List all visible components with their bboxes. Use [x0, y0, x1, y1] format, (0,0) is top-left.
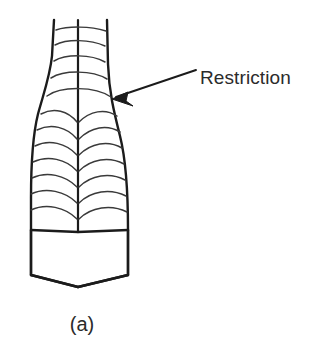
crystal-restriction-diagram: Restriction (a)	[0, 0, 327, 357]
figure-caption: (a)	[70, 313, 94, 335]
restriction-label: Restriction	[200, 67, 291, 88]
figure-container: Restriction (a)	[0, 0, 327, 357]
